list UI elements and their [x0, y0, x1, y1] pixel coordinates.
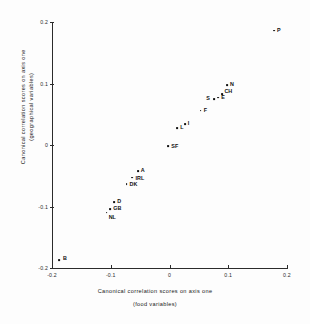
y-tick — [50, 84, 54, 85]
x-tick — [228, 265, 229, 269]
data-point — [213, 98, 215, 100]
scatter-plot-figure: -0.2-0.100.10.2 -0.2-0.100.10.2 BNLGBDDK… — [0, 0, 310, 324]
data-point — [113, 201, 115, 203]
data-point-label: A — [141, 167, 145, 173]
y-tick-label: 0 — [33, 142, 48, 148]
x-tick — [170, 265, 171, 269]
x-tick-label: -0.1 — [106, 272, 116, 278]
y-tick — [50, 207, 54, 208]
data-point — [217, 97, 219, 99]
data-point-label: B — [63, 255, 67, 261]
data-point-label: IRL — [135, 175, 144, 181]
data-point — [132, 177, 134, 179]
data-point-label: L — [180, 124, 183, 130]
data-point-label: CH — [224, 88, 232, 94]
data-point — [176, 127, 178, 129]
y-tick — [50, 145, 54, 146]
data-point-label: P — [277, 27, 281, 33]
data-point-label: DK — [130, 181, 138, 187]
x-axis-title-main: Canonical correlation scores on axis one — [0, 288, 310, 294]
data-point-label: SF — [171, 143, 178, 149]
data-point — [167, 145, 169, 147]
y-tick-label: 0.2 — [33, 19, 48, 25]
data-point — [273, 30, 275, 32]
x-tick-label: 0.2 — [283, 272, 291, 278]
data-point-label: F — [204, 107, 207, 113]
y-tick-label: -0.1 — [33, 204, 48, 210]
data-point — [58, 259, 60, 261]
x-tick — [287, 265, 288, 269]
y-axis-title: Canonical correlation scores on axis one… — [20, 2, 34, 212]
data-point — [106, 212, 108, 214]
y-tick — [50, 268, 54, 269]
data-point — [184, 123, 186, 125]
data-point — [200, 110, 202, 112]
x-tick-label: 0 — [168, 272, 171, 278]
data-point — [126, 183, 128, 185]
y-tick — [50, 22, 54, 23]
x-axis-title: Canonical correlation scores on axis one… — [0, 288, 310, 307]
data-point — [226, 84, 228, 86]
plot-area: -0.2-0.100.10.2 -0.2-0.100.10.2 BNLGBDDK… — [52, 22, 287, 269]
data-point — [137, 170, 139, 172]
x-tick-label: 0.1 — [224, 272, 232, 278]
y-tick-label: 0.1 — [33, 81, 48, 87]
x-axis-title-sub: (food variables) — [0, 301, 310, 307]
data-point-label: S — [206, 95, 210, 101]
y-axis-title-main: Canonical correlation scores on axis one — [20, 2, 26, 212]
data-point-label: GB — [113, 205, 121, 211]
data-point — [109, 208, 111, 210]
data-point-label: D — [117, 198, 121, 204]
x-tick-label: -0.2 — [47, 272, 57, 278]
data-point-label: NL — [109, 214, 116, 220]
data-point — [221, 93, 223, 95]
data-point-label: N — [230, 81, 234, 87]
y-tick-label: -0.2 — [33, 265, 48, 271]
y-axis-title-sub: (geographical variables) — [28, 2, 34, 212]
x-tick — [111, 265, 112, 269]
data-point-label: I — [188, 120, 190, 126]
